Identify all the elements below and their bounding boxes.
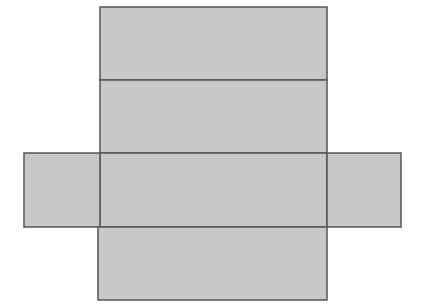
right-flap (327, 153, 401, 227)
prism-net-diagram (0, 0, 423, 308)
back-face (100, 80, 327, 153)
top-face (100, 7, 327, 80)
bottom-face (98, 227, 327, 300)
center-face (100, 153, 327, 227)
left-flap (24, 153, 100, 227)
